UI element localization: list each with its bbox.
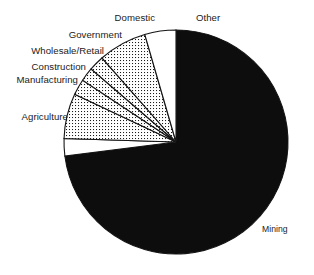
slice-label-mining: Mining [262,224,288,234]
pie-slices [64,30,288,254]
slice-label-wholesale-retail: Wholesale/Retail [31,45,104,56]
slice-label-government: Government [69,29,123,40]
pie-chart-figure: MiningAgricultureManufacturingConstructi… [0,0,314,275]
slice-label-manufacturing: Manufacturing [17,74,78,85]
slice-label-domestic: Domestic [115,12,156,23]
pie-chart-canvas: MiningAgricultureManufacturingConstructi… [0,0,314,275]
slice-label-other: Other [196,12,221,23]
slice-label-agriculture: Agriculture [22,111,68,122]
slice-label-construction: Construction [32,61,86,72]
